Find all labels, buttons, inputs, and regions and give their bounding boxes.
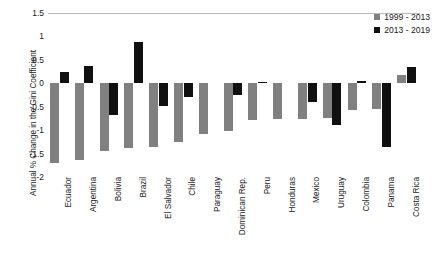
bar-group [271,13,296,177]
bar [134,42,143,83]
bar [407,67,416,83]
plot-area [48,13,420,177]
bar [298,83,307,119]
bar-group [346,13,371,177]
legend-swatch-icon [374,27,380,33]
y-tick-label: -1.5 [2,149,44,158]
bar [308,83,317,101]
bar [233,83,242,95]
bar [109,83,118,114]
gini-change-bar-chart: Annual % Change in the Gini Coefficient … [0,0,438,262]
bar-group [296,13,321,177]
legend-swatch-icon [374,14,380,20]
bar [75,83,84,159]
x-axis-tick-labels: EcuadorArgentinaBoliviaBrazilEl Salvador… [48,177,420,262]
y-tick-label: 1.5 [2,9,44,18]
legend-label: 1999 - 2013 [384,12,430,22]
bar [84,66,93,83]
bar-group [370,13,395,177]
bar-group [122,13,147,177]
x-tick-label: Panama [387,177,396,208]
bar [159,83,168,105]
bar-group [172,13,197,177]
bar [372,83,381,108]
bar [357,81,366,83]
bar-group [246,13,271,177]
y-tick-label: -2 [2,173,44,182]
bar-group [197,13,222,177]
x-tick-label: Honduras [288,177,297,213]
bar [323,83,332,118]
y-tick-label: 0 [2,79,44,88]
bar [348,83,357,110]
bar-group [222,13,247,177]
bar [273,83,282,119]
y-tick-label: -1 [2,126,44,135]
bar [184,83,193,97]
x-tick-label: Argentina [89,177,98,212]
bar-groups [48,13,420,177]
y-tick-label: -0.5 [2,102,44,111]
x-tick-label: Colombia [362,177,371,212]
bar-group [147,13,172,177]
bar [174,83,183,142]
x-tick-label: Uruguay [337,177,346,208]
bar [332,83,341,124]
bar-group [98,13,123,177]
x-tick-label: Costa Rica [412,177,421,217]
legend-item[interactable]: 2013 - 2019 [374,25,430,35]
x-tick-label: El Salvador [164,177,173,219]
x-tick-label: Bolivia [114,177,123,201]
y-tick-label: 1 [2,32,44,41]
bar [60,72,69,84]
bar [382,83,391,146]
bar [199,83,208,134]
bar [50,83,59,163]
x-tick-label: Paraguay [213,177,222,212]
bar [224,83,233,130]
x-tick-label: Brazil [139,177,148,197]
x-tick-label: Chile [188,177,197,196]
x-tick-label: Ecuador [64,177,73,208]
chart-legend: 1999 - 20132013 - 2019 [374,12,430,35]
x-tick-label: Dominican Rep. [238,177,247,235]
bar-group [321,13,346,177]
bar [248,83,257,120]
y-tick-label: 0.5 [2,55,44,64]
legend-item[interactable]: 1999 - 2013 [374,12,430,22]
bar [149,83,158,146]
y-axis-tick-labels: 1.510.50-0.5-1-1.5-2 [0,13,44,177]
x-tick-label: Mexico [312,177,321,203]
bar-group [395,13,420,177]
bar-group [73,13,98,177]
bar [258,82,267,83]
legend-label: 2013 - 2019 [384,25,430,35]
bar [100,83,109,151]
x-tick-label: Peru [263,177,272,194]
bar [397,75,406,83]
bar-group [48,13,73,177]
bar [124,83,133,148]
